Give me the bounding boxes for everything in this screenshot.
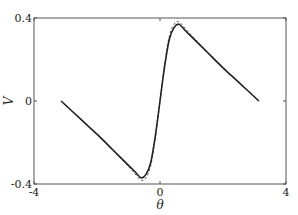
axis-ticks: -404-0.400.4 [11,12,290,199]
y-tick-label: 0 [25,95,32,108]
line-chart: -404-0.400.4 θ V [0,0,298,215]
y-axis-label: V [2,95,16,105]
x-tick-label: 4 [283,186,290,199]
plot-curves [61,21,259,180]
y-tick-label: -0.4 [11,178,32,191]
x-axis-label: θ [156,198,164,212]
y-tick-label: 0.4 [15,12,33,25]
series-solid-line [61,24,259,178]
